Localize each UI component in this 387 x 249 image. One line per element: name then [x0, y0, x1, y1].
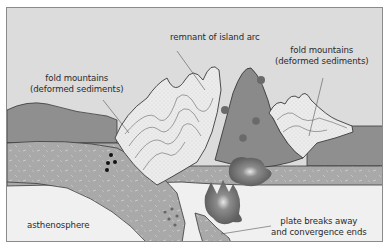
cross-section-diagram: remnant of island arc fold mountains (de…: [6, 7, 383, 242]
asthenosphere-label: asthenosphere: [27, 220, 90, 231]
geology-cross-section-art: [7, 8, 383, 242]
fold-mountains-left-label: fold mountains (deformed sediments): [30, 73, 124, 94]
remnant-island-arc-label: remnant of island arc: [170, 32, 260, 43]
fold-mountains-right-label: fold mountains (deformed sediments): [275, 45, 369, 66]
plate-breaks-away-label: plate breaks away and convergence ends: [271, 216, 367, 237]
